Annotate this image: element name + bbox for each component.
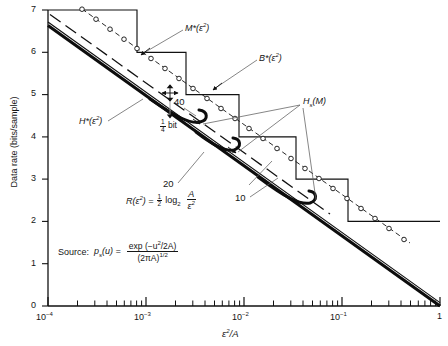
- x-axis-ticks: [48, 297, 440, 306]
- y-tick-7: 7: [31, 4, 36, 14]
- formula-a-over-eps2: A ε2: [187, 190, 196, 211]
- x-axis-title: ε2/A: [222, 328, 239, 339]
- formula-source-pdf: ps(u) =: [94, 246, 121, 258]
- y-tick-5: 5: [31, 88, 36, 98]
- rate-distortion-figure: Data rate (bits/sample) 7 6 5 4 3 2 1 0 …: [0, 0, 448, 346]
- label-b-star: B*(ε2): [259, 52, 282, 63]
- leader-m-star: [142, 30, 183, 54]
- label-h-star: H*(ε2): [79, 115, 102, 126]
- y-axis-ticks: [42, 10, 48, 306]
- label-m-star: M*(ε2): [185, 22, 209, 33]
- chart-canvas: [0, 0, 448, 346]
- formula-one-half: 1 2: [157, 194, 163, 208]
- formula-rate-lhs: R(ε2) =: [126, 195, 154, 206]
- label-curve-10: 10: [235, 192, 246, 203]
- formula-rate-distortion: R(ε2) = 1 2 log2 A ε2: [126, 190, 196, 211]
- quarter-bit-word: bit: [168, 120, 177, 130]
- y-tick-6: 6: [31, 46, 36, 56]
- label-hs-m: Hs(M): [303, 96, 326, 108]
- x-tick-1: 1: [437, 311, 442, 321]
- label-curve-40: 40: [174, 96, 185, 107]
- y-tick-0: 0: [31, 300, 36, 310]
- formula-source-lhs: Source:: [58, 247, 89, 257]
- annotation-leaders: [108, 30, 316, 200]
- leader-hs-40: [203, 105, 300, 124]
- x-tick-1e-3: 10−3: [134, 311, 151, 322]
- formula-source-fraction: exp (−u2/2A) (2πA)1/2: [127, 240, 179, 264]
- formula-source-denominator: (2πA)1/2: [127, 252, 179, 263]
- formula-log2: log2: [165, 195, 180, 207]
- leader-hs-10: [303, 108, 316, 200]
- y-tick-4: 4: [31, 131, 36, 141]
- leader-h-star: [108, 99, 143, 121]
- label-curve-20: 20: [163, 178, 174, 189]
- y-tick-2: 2: [31, 215, 36, 225]
- series-hs-m-curves: [150, 99, 316, 203]
- quarter-fraction: 1 4: [160, 119, 166, 133]
- x-tick-1e-4: 10−4: [36, 311, 53, 322]
- x-tick-1e-2: 10−2: [232, 311, 249, 322]
- y-tick-1: 1: [31, 258, 36, 268]
- x-tick-1e-1: 10−1: [330, 311, 347, 322]
- label-quarter-bit: 1 4 bit: [160, 119, 177, 133]
- formula-source-numerator: exp (−u2/2A): [127, 240, 179, 252]
- y-axis-title: Data rate (bits/sample): [9, 77, 19, 207]
- leader-label-20: [178, 152, 204, 183]
- y-tick-3: 3: [31, 173, 36, 183]
- formula-source: Source: ps(u) = exp (−u2/2A) (2πA)1/2: [58, 240, 178, 264]
